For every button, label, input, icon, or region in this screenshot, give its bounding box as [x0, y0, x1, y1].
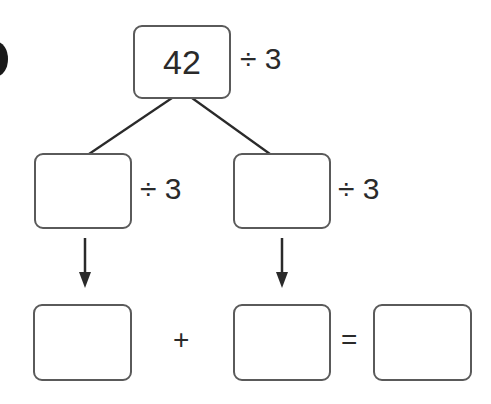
middle-right-answer-box[interactable]	[233, 153, 331, 229]
branch-line-left	[89, 98, 172, 154]
top-number-box: 42	[133, 25, 231, 99]
middle-left-divide-label: ÷ 3	[140, 174, 181, 204]
down-arrow-right-head	[276, 272, 288, 288]
branch-line-right	[192, 98, 270, 154]
middle-right-divide-label: ÷ 3	[338, 174, 379, 204]
top-number: 42	[163, 43, 201, 82]
result-answer-box[interactable]	[373, 304, 472, 381]
equals-sign: =	[341, 326, 357, 354]
down-arrow-left-head	[79, 272, 91, 288]
middle-left-answer-box[interactable]	[34, 153, 132, 229]
bottom-left-answer-box[interactable]	[33, 304, 132, 381]
bottom-right-answer-box[interactable]	[233, 304, 331, 381]
top-divide-label: ÷ 3	[240, 44, 281, 74]
plus-sign: +	[173, 326, 189, 354]
